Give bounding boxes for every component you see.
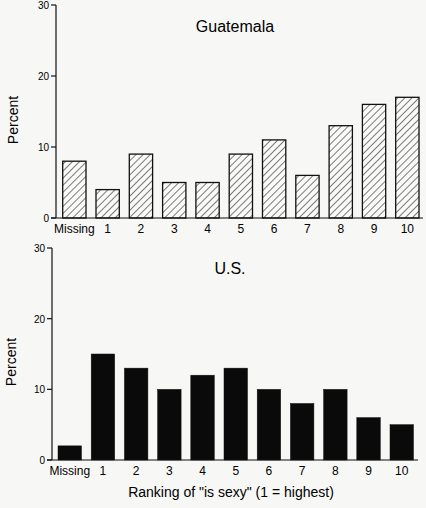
x-axis-label: Ranking of "is sexy" (1 = highest) (128, 484, 334, 500)
bar-9 (357, 418, 381, 460)
x-tick-label: 4 (204, 222, 211, 236)
bar-3 (163, 183, 186, 219)
y-tick-label: 0 (39, 455, 45, 466)
bar-8 (329, 126, 352, 218)
y-tick-label: 20 (38, 71, 50, 82)
y-axis-label: Percent (5, 96, 21, 144)
x-tick-label: 7 (304, 222, 311, 236)
x-tick-label: 6 (271, 222, 278, 236)
bar-5 (229, 154, 252, 218)
x-tick-label: 3 (166, 464, 173, 478)
bar-1 (91, 354, 115, 460)
bar-10 (390, 425, 414, 460)
y-tick-label: 30 (34, 243, 46, 254)
chart-title: U.S. (214, 260, 245, 277)
bar-3 (158, 389, 182, 460)
bar-missing (63, 161, 86, 218)
bar-2 (129, 154, 152, 218)
bar-8 (324, 389, 348, 460)
x-tick-label: 9 (371, 222, 378, 236)
x-tick-label: 2 (133, 464, 140, 478)
x-tick-label: 5 (238, 222, 245, 236)
x-tick-label: 8 (332, 464, 339, 478)
us-chart: Missing123456789100102030U.S.PercentRank… (3, 243, 418, 500)
x-tick-label: Missing (49, 464, 90, 478)
y-tick-label: 10 (38, 142, 50, 153)
bar-7 (290, 403, 314, 460)
y-tick-label: 0 (43, 213, 49, 224)
x-tick-label: 4 (199, 464, 206, 478)
chart-title: Guatemala (196, 18, 274, 35)
bar-6 (263, 140, 286, 218)
x-tick-label: 2 (138, 222, 145, 236)
bar-10 (396, 97, 419, 218)
x-tick-label: 9 (365, 464, 372, 478)
bar-4 (196, 183, 219, 219)
x-tick-label: 1 (104, 222, 111, 236)
bar-missing (58, 446, 82, 460)
x-tick-label: 6 (266, 464, 273, 478)
y-tick-label: 10 (34, 384, 46, 395)
bar-6 (257, 389, 281, 460)
x-tick-label: Missing (54, 222, 95, 236)
y-axis-label: Percent (3, 338, 19, 386)
figure: Missing123456789100102030GuatemalaPercen… (0, 0, 426, 508)
y-tick-label: 30 (38, 0, 50, 11)
bar-5 (224, 368, 248, 460)
bar-9 (362, 104, 385, 218)
x-tick-label: 10 (401, 222, 415, 236)
x-tick-label: 10 (395, 464, 409, 478)
bar-7 (296, 175, 319, 218)
x-tick-label: 8 (337, 222, 344, 236)
x-tick-label: 1 (100, 464, 107, 478)
bar-4 (191, 375, 215, 460)
guatemala-chart: Missing123456789100102030GuatemalaPercen… (5, 0, 423, 236)
x-tick-label: 7 (299, 464, 306, 478)
bar-2 (124, 368, 147, 460)
bar-1 (96, 190, 119, 218)
x-tick-label: 3 (171, 222, 178, 236)
y-tick-label: 20 (34, 314, 46, 325)
x-tick-label: 5 (232, 464, 239, 478)
